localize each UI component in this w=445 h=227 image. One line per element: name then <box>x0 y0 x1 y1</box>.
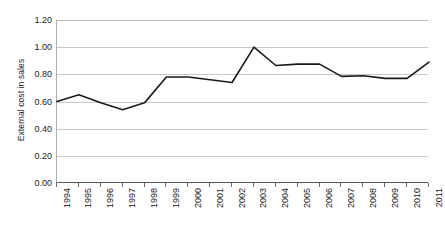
x-axis-tick <box>231 183 232 187</box>
x-axis-tick-label: 2011 <box>434 188 445 224</box>
y-axis-tick-label: 0.80 <box>20 69 52 79</box>
x-axis-tick-label: 2001 <box>215 188 226 224</box>
x-axis-tick-labels: 1994199519961997199819992000200120022003… <box>56 188 428 227</box>
x-axis-tick <box>187 183 188 187</box>
x-axis-tick-label: 2002 <box>237 188 248 224</box>
x-axis-tick <box>165 183 166 187</box>
x-axis-tick <box>362 183 363 187</box>
x-axis-tick-label: 2004 <box>280 188 291 224</box>
x-axis-tick-label: 2007 <box>346 188 357 224</box>
x-axis-tick-label: 1997 <box>127 188 138 224</box>
x-axis-tick <box>56 183 57 187</box>
x-axis-tick <box>340 183 341 187</box>
series-polyline <box>57 47 429 109</box>
x-axis-tick <box>100 183 101 187</box>
y-axis-tick-label: 0.60 <box>20 97 52 107</box>
y-axis-tick-label: 1.20 <box>20 15 52 25</box>
x-axis-tick-label: 2003 <box>258 188 269 224</box>
y-axis-tick-label: 0.40 <box>20 124 52 134</box>
x-axis-tick <box>144 183 145 187</box>
data-series-line <box>57 20 429 183</box>
y-axis-tick-label: 0.20 <box>20 151 52 161</box>
x-axis-tick-label: 2008 <box>368 188 379 224</box>
x-axis-tick-label: 2005 <box>302 188 313 224</box>
x-axis-tick-label: 1996 <box>105 188 116 224</box>
plot-area <box>56 20 428 183</box>
x-axis-tick <box>253 183 254 187</box>
x-axis-tick-label: 2010 <box>412 188 423 224</box>
x-axis-tick-label: 1995 <box>83 188 94 224</box>
x-axis-tick <box>406 183 407 187</box>
y-axis-tick-label: 1.00 <box>20 42 52 52</box>
x-axis-tick-label: 2006 <box>324 188 335 224</box>
x-axis-tick-label: 2000 <box>193 188 204 224</box>
y-axis-tick-label: 0.00 <box>20 178 52 188</box>
x-axis-tick <box>384 183 385 187</box>
x-axis-tick-label: 2009 <box>390 188 401 224</box>
x-axis-tick <box>428 183 429 187</box>
x-axis-tick <box>209 183 210 187</box>
x-axis-tick <box>297 183 298 187</box>
x-axis-tick <box>78 183 79 187</box>
x-axis-tick-label: 1998 <box>149 188 160 224</box>
x-axis-tick <box>319 183 320 187</box>
x-axis-tick <box>122 183 123 187</box>
x-axis-tick-label: 1999 <box>171 188 182 224</box>
x-axis-tick <box>275 183 276 187</box>
x-axis-tick-label: 1994 <box>62 188 73 224</box>
y-axis-tick-labels: 0.000.200.400.600.801.001.20 <box>20 0 52 227</box>
